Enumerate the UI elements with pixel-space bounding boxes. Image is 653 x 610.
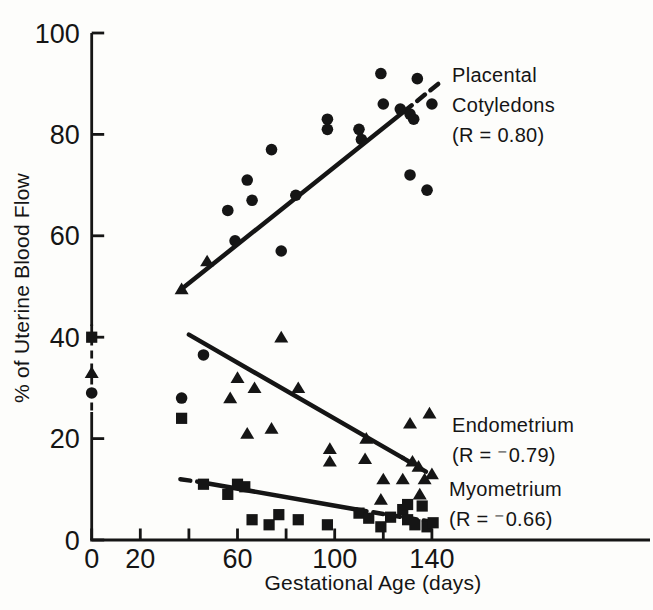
myometrium-point xyxy=(363,513,374,524)
endometrium-point xyxy=(396,473,410,485)
placental-cotyledons-point xyxy=(86,387,98,399)
x-tick-label: 60 xyxy=(222,544,252,574)
placental-cotyledons-point xyxy=(229,235,241,247)
myometrium-point xyxy=(198,479,209,490)
placental-cotyledons-point xyxy=(322,113,334,125)
placental-cotyledons-point xyxy=(375,68,387,80)
myometrium-point xyxy=(417,500,428,511)
endometrium-point xyxy=(231,371,245,383)
endometrium-point xyxy=(240,427,254,439)
myometrium-point xyxy=(86,332,97,343)
endometrium-point xyxy=(200,255,214,267)
endometrium-point xyxy=(274,331,288,343)
endometrium-point xyxy=(248,381,262,393)
y-tick-label: 100 xyxy=(35,19,80,49)
placental-cotyledons-series-label: Placental Cotyledons (R = 0.80) xyxy=(452,60,555,150)
endometrium-point xyxy=(323,455,337,467)
placental-cotyledons-point xyxy=(176,392,188,404)
placental-cotyledons-point xyxy=(404,169,416,181)
x-tick-label: 0 xyxy=(84,544,99,574)
myometrium-point xyxy=(402,499,413,510)
y-tick-label: 20 xyxy=(50,424,80,454)
endometrium-point xyxy=(422,407,436,419)
y-tick-label: 0 xyxy=(65,526,80,556)
x-tick-label: 20 xyxy=(125,544,155,574)
placental-cotyledons-point xyxy=(275,245,287,257)
myometrium-point xyxy=(353,508,364,519)
y-tick-label: 80 xyxy=(50,120,80,150)
endometrium-point xyxy=(223,392,237,404)
endometrium-trend-line xyxy=(189,335,403,458)
scatter-figure: 02040608010002060100140 % of Uterine Blo… xyxy=(0,0,653,610)
endometrium-point xyxy=(376,473,390,485)
myometrium-point xyxy=(385,512,396,523)
myometrium-point xyxy=(239,481,250,492)
placental-cotyledons-point xyxy=(246,195,258,207)
placental-cotyledons-point xyxy=(356,134,368,146)
endometrium-point xyxy=(85,366,99,378)
placental-cotyledons-point xyxy=(222,205,234,217)
endometrium-point xyxy=(291,381,305,393)
placental-cotyledons-point xyxy=(426,98,438,110)
placental-cotyledons-point xyxy=(266,144,278,156)
myometrium-point xyxy=(263,519,274,530)
y-axis-title: % of Uterine Blood Flow xyxy=(10,173,34,403)
placental-cotyledons-point xyxy=(378,98,390,110)
endometrium-point xyxy=(323,442,337,454)
placental-cotyledons-point xyxy=(412,73,424,85)
endometrium-point xyxy=(374,493,388,505)
placental-cotyledons-point xyxy=(322,124,334,136)
endometrium-point xyxy=(265,422,279,434)
y-tick-label: 40 xyxy=(50,323,80,353)
myometrium-point xyxy=(176,413,187,424)
y-tick-label: 60 xyxy=(50,221,80,251)
myometrium-point xyxy=(322,519,333,530)
myometrium-point xyxy=(246,514,257,525)
myometrium-point xyxy=(428,517,439,528)
endometrium-point xyxy=(358,452,372,464)
endometrium-series-label: Endometrium (R = ⁻0.79) xyxy=(452,410,574,470)
x-axis-title: Gestational Age (days) xyxy=(265,571,482,595)
myometrium-point xyxy=(293,514,304,525)
x-tick-label: 100 xyxy=(312,544,357,574)
placental-cotyledons-point xyxy=(198,349,210,361)
myometrium-point xyxy=(375,521,386,532)
endometrium-point xyxy=(413,488,427,500)
placental-cotyledons-point xyxy=(408,113,420,125)
placental-cotyledons-point xyxy=(421,184,433,196)
endometrium-point xyxy=(403,417,417,429)
placental-cotyledons-point xyxy=(241,174,253,186)
myometrium-point xyxy=(409,519,420,530)
myometrium-point xyxy=(273,509,284,520)
placental-cotyledons-trend-line xyxy=(182,112,404,289)
placental-cotyledons-point xyxy=(353,124,365,136)
myometrium-series-label: Myometrium (R = ⁻0.66) xyxy=(449,474,562,534)
placental-cotyledons-point xyxy=(290,189,302,201)
myometrium-point xyxy=(222,489,233,500)
x-tick-label: 140 xyxy=(409,544,454,574)
